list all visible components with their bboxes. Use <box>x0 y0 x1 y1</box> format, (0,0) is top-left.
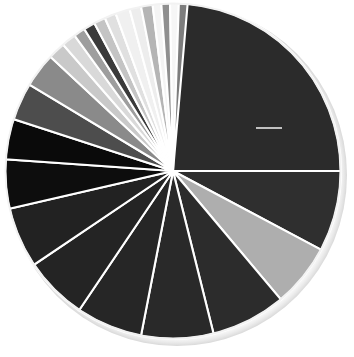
pie-chart-container <box>0 0 354 357</box>
pie-slice[interactable] <box>173 3 341 171</box>
chart-page <box>0 0 354 357</box>
pie-slices-group <box>5 3 341 339</box>
pie-chart-svg <box>0 0 354 357</box>
